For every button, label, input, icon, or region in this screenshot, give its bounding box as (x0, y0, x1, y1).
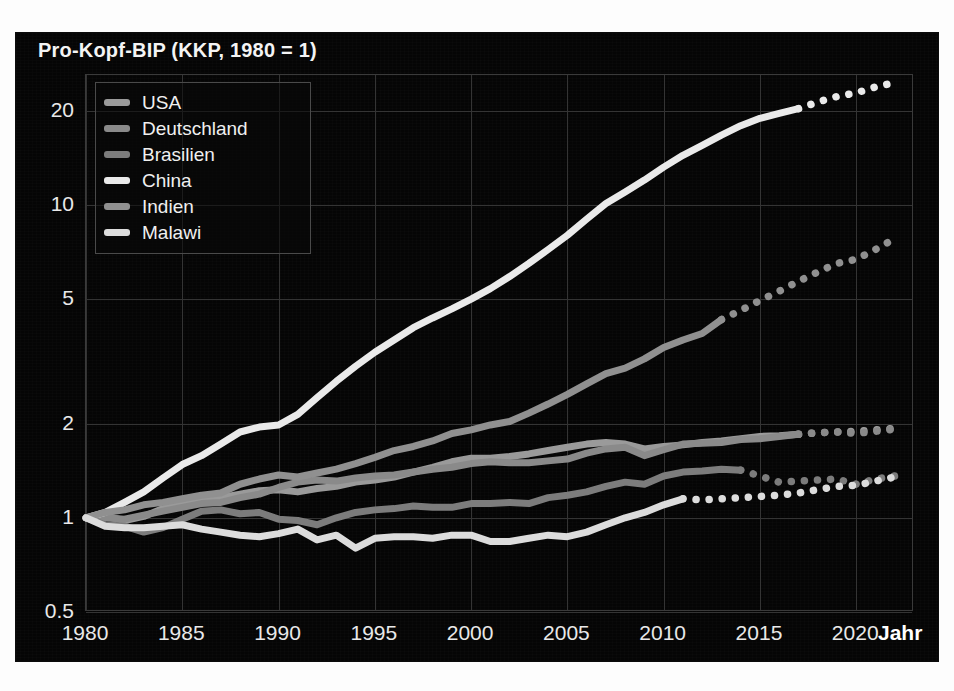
series-line-indien (86, 320, 721, 518)
x-tick-label: 2000 (425, 621, 515, 645)
x-axis-title: Jahr (878, 621, 922, 645)
x-tick-label: 2005 (521, 621, 611, 645)
chart-root: Pro-Kopf-BIP (KKP, 1980 = 1) 0.51251020 … (0, 0, 954, 691)
x-tick-label: 2015 (714, 621, 804, 645)
legend-item-deutschland[interactable]: Deutschland (104, 115, 302, 141)
x-tick-label: 1995 (329, 621, 419, 645)
y-tick-label: 0.5 (20, 599, 74, 623)
legend-item-label: Brasilien (142, 145, 215, 164)
chart-title: Pro-Kopf-BIP (KKP, 1980 = 1) (38, 39, 317, 62)
y-tick-label: 1 (20, 505, 74, 529)
x-tick-label: 1990 (233, 621, 323, 645)
legend-item-label: Indien (142, 197, 194, 216)
x-tick-label: 2010 (618, 621, 708, 645)
series-projection-brasilien (741, 470, 895, 484)
gridline-y-0.5 (86, 612, 912, 613)
y-tick-label: 20 (20, 98, 74, 122)
series-projection-indien (721, 239, 894, 320)
legend-item-malawi[interactable]: Malawi (104, 219, 302, 245)
legend-swatch-icon (104, 99, 130, 106)
y-tick-label: 2 (20, 411, 74, 435)
series-projection-china (798, 83, 894, 109)
legend-item-label: USA (142, 93, 181, 112)
legend-swatch-icon (104, 177, 130, 184)
chart-panel: Pro-Kopf-BIP (KKP, 1980 = 1) 0.51251020 … (16, 33, 938, 661)
x-tick-label: 1980 (40, 621, 130, 645)
legend-item-label: Malawi (142, 223, 201, 242)
legend-item-label: Deutschland (142, 119, 248, 138)
x-tick-label: 1985 (136, 621, 226, 645)
legend-item-usa[interactable]: USA (104, 89, 302, 115)
series-projection-deutschland (798, 429, 894, 434)
y-tick-label: 10 (20, 192, 74, 216)
legend-swatch-icon (104, 125, 130, 132)
legend-item-china[interactable]: China (104, 167, 302, 193)
legend-item-brasilien[interactable]: Brasilien (104, 141, 302, 167)
legend-swatch-icon (104, 203, 130, 210)
y-tick-label: 5 (20, 286, 74, 310)
chart-legend: USADeutschlandBrasilienChinaIndienMalawi (95, 82, 311, 254)
legend-swatch-icon (104, 229, 130, 236)
legend-item-indien[interactable]: Indien (104, 193, 302, 219)
legend-swatch-icon (104, 151, 130, 158)
legend-item-label: China (142, 171, 192, 190)
